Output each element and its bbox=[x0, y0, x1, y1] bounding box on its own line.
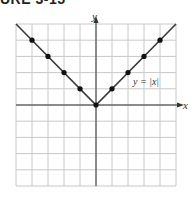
y-axis-label: y bbox=[91, 10, 97, 22]
data-point bbox=[157, 38, 162, 43]
data-point bbox=[61, 70, 66, 75]
data-point bbox=[29, 38, 34, 43]
data-point bbox=[141, 54, 146, 59]
absolute-value-graph: x y y = |x| bbox=[0, 0, 193, 201]
data-point bbox=[93, 102, 98, 107]
data-point bbox=[109, 86, 114, 91]
data-point bbox=[45, 54, 50, 59]
x-axis-label: x bbox=[182, 99, 188, 111]
data-point bbox=[125, 70, 130, 75]
equation-label: y = |x| bbox=[132, 76, 159, 87]
data-point bbox=[77, 86, 82, 91]
